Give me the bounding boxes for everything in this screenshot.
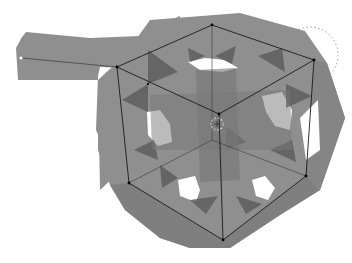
viewport-canvas[interactable]	[0, 0, 352, 263]
vertex-mid[interactable]	[147, 83, 149, 85]
vertex-top-back[interactable]	[211, 24, 214, 27]
mesh-object[interactable]	[16, 13, 345, 248]
vertex-bottom-left[interactable]	[128, 182, 131, 185]
vertex-bottom-front[interactable]	[222, 239, 225, 242]
arm-endpoint-marker	[19, 56, 22, 59]
vertex-top-left[interactable]	[116, 66, 119, 69]
vertex-top-right[interactable]	[313, 59, 316, 62]
vertex-top-front[interactable]	[218, 113, 221, 116]
vertex-bottom-right[interactable]	[305, 175, 308, 178]
3d-viewport[interactable]: 3D viewport	[0, 0, 352, 263]
